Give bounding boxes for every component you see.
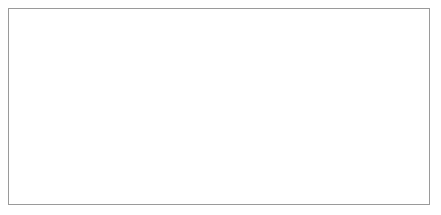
- plot-area: [57, 31, 433, 195]
- chart-container: [0, 0, 441, 215]
- chart-frame: [8, 8, 430, 205]
- y-axis-labels: [9, 9, 53, 206]
- chart-plot-svg: [57, 31, 433, 201]
